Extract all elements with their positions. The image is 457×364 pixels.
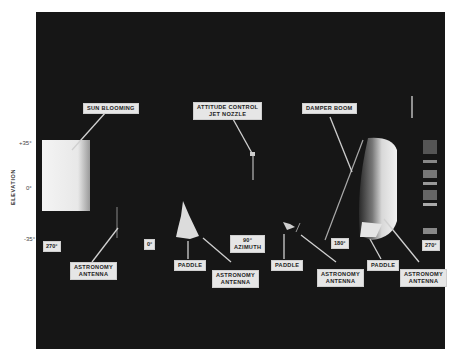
callout-paddle-1: PADDLE (174, 260, 206, 271)
callout-90-azimuth: 90° AZIMUTH (230, 235, 265, 253)
callout-line: 90° (234, 237, 261, 244)
callout-line: ASTRONOMY (404, 271, 443, 278)
paddle-shape-2 (283, 222, 295, 230)
callout-line: ANTENNA (404, 278, 443, 285)
callout-line: JET NOZZLE (197, 111, 258, 118)
azimuth-marker-180: 180° (331, 238, 349, 249)
photo-content (0, 0, 457, 364)
callout-line: ASTRONOMY (321, 271, 360, 278)
callout-astronomy-antenna-4: ASTRONOMY ANTENNA (400, 269, 447, 287)
elevation-tick-minus35: -35° (24, 236, 35, 242)
azimuth-marker-270-left: 270° (43, 241, 61, 252)
callout-line: ASTRONOMY (74, 264, 113, 271)
callout-sun-blooming: SUN BLOOMING (83, 103, 139, 114)
elevation-tick-plus35: +35° (19, 140, 32, 146)
paddle-shape-1 (176, 201, 199, 239)
callout-line: ASTRONOMY (216, 272, 255, 279)
callout-astronomy-antenna-2: ASTRONOMY ANTENNA (212, 270, 259, 288)
callout-paddle-3: PADDLE (367, 260, 399, 271)
sun-blooming-region (42, 140, 90, 211)
callout-attitude-control-jet-nozzle: ATTITUDE CONTROL JET NOZZLE (193, 102, 262, 120)
elevation-tick-0: 0° (26, 185, 32, 191)
elevation-axis-title: ELEVATION (10, 169, 16, 205)
callout-paddle-2: PADDLE (271, 260, 303, 271)
panorama-figure: ELEVATION +35° 0° -35° SUN BLOOMING ATTI… (0, 0, 457, 364)
callout-damper-boom: DAMPER BOOM (302, 103, 357, 114)
callout-line: ANTENNA (74, 271, 113, 278)
callout-line: ANTENNA (321, 278, 360, 285)
callout-line: ATTITUDE CONTROL (197, 104, 258, 111)
azimuth-marker-0: 0° (144, 239, 155, 250)
azimuth-marker-270-right: 270° (422, 240, 440, 251)
callout-astronomy-antenna-1: ASTRONOMY ANTENNA (70, 262, 117, 280)
callout-line: AZIMUTH (234, 244, 261, 251)
callout-astronomy-antenna-3: ASTRONOMY ANTENNA (317, 269, 364, 287)
callout-line: ANTENNA (216, 279, 255, 286)
